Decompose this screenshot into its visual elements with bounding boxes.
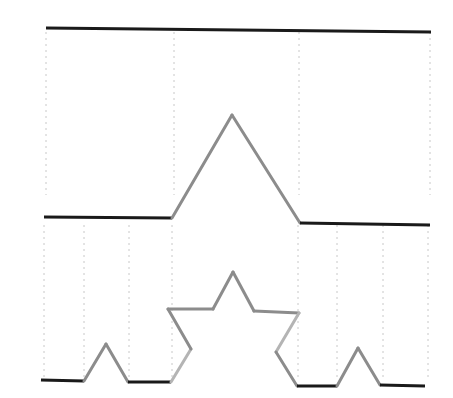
slanted-segment bbox=[84, 344, 106, 381]
slanted-segment bbox=[171, 349, 191, 382]
koch-iteration-1 bbox=[44, 115, 430, 225]
slanted-segment bbox=[254, 311, 299, 313]
koch-iteration-2 bbox=[41, 272, 425, 386]
slanted-segment bbox=[106, 344, 128, 382]
koch-curve-diagram bbox=[0, 0, 453, 398]
flat-segment bbox=[44, 217, 172, 218]
diagram-canvas bbox=[0, 0, 453, 398]
slanted-segment bbox=[168, 309, 191, 349]
slanted-segment bbox=[337, 348, 358, 386]
slanted-segment bbox=[213, 272, 233, 309]
koch-iteration-0 bbox=[46, 28, 431, 32]
slanted-segment bbox=[172, 115, 232, 218]
flat-segment bbox=[46, 28, 431, 32]
slanted-segment bbox=[358, 348, 380, 385]
koch-curves bbox=[41, 28, 431, 386]
guide-lines bbox=[44, 32, 430, 380]
slanted-segment bbox=[276, 352, 297, 386]
slanted-segment bbox=[233, 272, 254, 311]
flat-segment bbox=[300, 223, 430, 225]
flat-segment bbox=[41, 380, 84, 381]
slanted-segment bbox=[232, 115, 300, 223]
slanted-segment bbox=[276, 313, 299, 352]
flat-segment bbox=[380, 385, 425, 386]
